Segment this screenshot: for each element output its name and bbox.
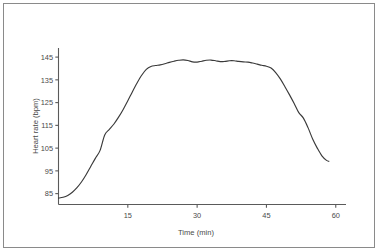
- x-axis-title: Time (min): [178, 228, 214, 237]
- x-axis-ticks: 15304560: [124, 205, 340, 220]
- y-tick-label: 135: [41, 76, 53, 85]
- y-tick-label: 85: [45, 189, 53, 198]
- y-tick-label: 145: [41, 53, 53, 62]
- y-axis-title: Heart rate (bpm): [31, 98, 40, 154]
- x-tick-label: 15: [124, 211, 132, 220]
- heart-rate-curve: [59, 60, 329, 198]
- axes: [59, 48, 347, 205]
- y-tick-label: 115: [41, 121, 53, 130]
- x-tick-label: 60: [332, 211, 340, 220]
- data-series-group: [59, 60, 329, 198]
- y-tick-label: 95: [45, 167, 53, 176]
- y-tick-label: 105: [41, 144, 53, 153]
- y-axis-ticks: 8595105115125135145: [41, 53, 59, 199]
- x-tick-label: 30: [193, 211, 201, 220]
- y-tick-label: 125: [41, 98, 53, 107]
- x-tick-label: 45: [262, 211, 270, 220]
